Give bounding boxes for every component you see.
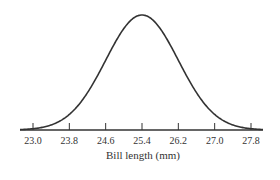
x-tick-label: 23.8: [61, 135, 79, 146]
x-tick-label: 23.0: [24, 135, 42, 146]
x-tick-label: 24.6: [97, 135, 115, 146]
density-curve: [20, 15, 263, 130]
x-tick-label: 25.4: [133, 135, 151, 146]
x-axis-ticks: [33, 123, 251, 130]
x-tick-label: 26.2: [170, 135, 188, 146]
x-tick-label: 27.0: [206, 135, 224, 146]
x-tick-label: 27.8: [242, 135, 260, 146]
x-axis-label: Bill length (mm): [106, 149, 180, 161]
